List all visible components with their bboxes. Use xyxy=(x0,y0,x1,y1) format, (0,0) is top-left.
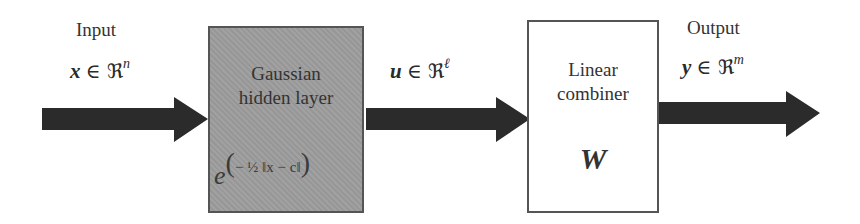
formula-body: − ½ ‖x − c‖ xyxy=(235,159,301,175)
hidden-output-dim: ℓ xyxy=(444,56,450,71)
formula-close-paren: ) xyxy=(301,147,310,178)
output-label: Output xyxy=(687,17,740,39)
formula-open-paren: ( xyxy=(226,147,235,178)
input-var: x xyxy=(70,59,81,83)
gaussian-formula: e(− ½ ‖x − c‖) xyxy=(214,159,310,191)
hidden-layer-title-1: Gaussian xyxy=(210,62,362,86)
combiner-title-1: Linear xyxy=(529,58,657,82)
input-set-symbol: ∈ ℜ xyxy=(86,59,123,83)
hidden-output-set-symbol: ∈ ℜ xyxy=(407,59,444,83)
gaussian-hidden-layer-box: Gaussian hidden layer e(− ½ ‖x − c‖) xyxy=(208,26,364,213)
output-var: y xyxy=(682,55,691,79)
formula-base: e xyxy=(214,161,226,190)
output-arrow xyxy=(658,91,820,137)
hidden-to-combiner-arrow xyxy=(366,97,530,142)
input-arrow xyxy=(42,97,208,142)
output-set-symbol: ∈ ℜ xyxy=(697,55,734,79)
hidden-layer-title-2: hidden layer xyxy=(210,86,362,110)
output-dim: m xyxy=(734,52,744,67)
input-space-label: x ∈ ℜn xyxy=(70,58,130,84)
linear-combiner-box: Linear combiner W xyxy=(527,20,659,213)
hidden-output-var: u xyxy=(390,59,402,83)
input-dim: n xyxy=(123,56,130,71)
hidden-output-space-label: u ∈ ℜℓ xyxy=(390,58,450,84)
combiner-title-2: combiner xyxy=(529,82,657,106)
input-label: Input xyxy=(76,19,116,41)
output-space-label: y ∈ ℜm xyxy=(682,54,744,80)
weight-matrix-symbol: W xyxy=(529,142,657,176)
